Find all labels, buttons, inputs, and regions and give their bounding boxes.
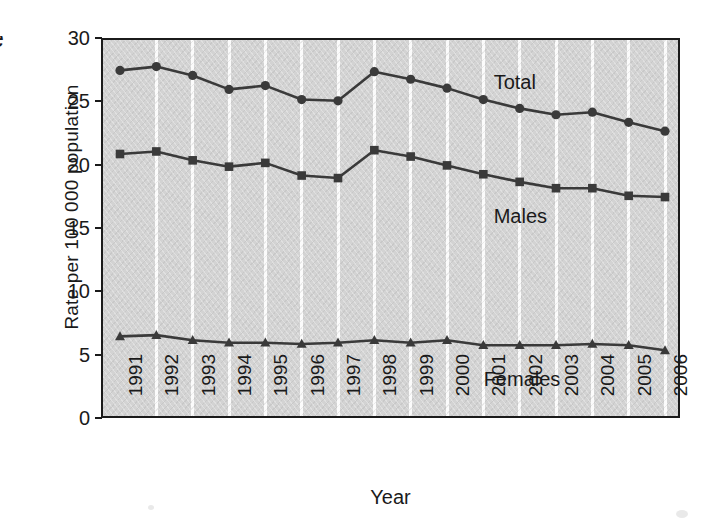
y-tick-label: 15 — [56, 218, 90, 238]
x-tick-label: 1996 — [308, 354, 327, 424]
data-point-total-1992 — [152, 62, 161, 71]
scan-speck — [676, 510, 688, 518]
series-label-total: Total — [494, 72, 536, 92]
series-total — [115, 62, 669, 136]
x-tick-label: 2006 — [671, 354, 690, 424]
series-line-females — [120, 335, 665, 350]
data-point-males-2001 — [479, 170, 488, 179]
series-males — [116, 146, 670, 201]
data-point-males-1994 — [225, 162, 234, 171]
series-line-males — [120, 150, 665, 197]
x-tick-label: 2004 — [598, 354, 617, 424]
data-point-total-2003 — [551, 110, 560, 119]
x-tick-label: 2005 — [635, 354, 654, 424]
data-point-total-2001 — [479, 95, 488, 104]
series-label-males: Males — [494, 206, 547, 226]
x-tick-label: 1994 — [235, 354, 254, 424]
data-point-males-1991 — [116, 150, 125, 159]
data-point-total-1997 — [333, 96, 342, 105]
x-tick-label: 2002 — [526, 354, 545, 424]
data-point-males-2002 — [515, 178, 524, 187]
data-point-total-1994 — [224, 85, 233, 94]
data-point-total-2000 — [442, 84, 451, 93]
data-point-total-1996 — [297, 95, 306, 104]
data-point-males-1999 — [406, 152, 415, 161]
edge-artifact-glyph: e — [0, 36, 4, 47]
data-point-males-1995 — [261, 159, 270, 168]
data-point-total-2002 — [515, 104, 524, 113]
x-tick-label: 1998 — [380, 354, 399, 424]
data-point-males-1992 — [152, 147, 161, 156]
y-tick-label: 25 — [56, 91, 90, 111]
data-point-total-2004 — [588, 108, 597, 117]
x-tick-label: 2001 — [489, 354, 508, 424]
scan-speck — [148, 505, 154, 510]
data-point-males-1998 — [370, 146, 379, 155]
data-point-total-2005 — [624, 118, 633, 127]
x-axis-title: Year — [101, 487, 680, 507]
x-tick-label: 1992 — [162, 354, 181, 424]
page-edge-glyph-artifact: e — [0, 36, 7, 53]
x-tick-label: 1999 — [417, 354, 436, 424]
data-point-males-2000 — [443, 161, 452, 170]
series-line-total — [120, 67, 665, 132]
x-tick-label: 2000 — [453, 354, 472, 424]
data-point-total-1993 — [188, 71, 197, 80]
x-tick-label: 1991 — [126, 354, 145, 424]
data-point-males-2004 — [588, 184, 597, 193]
x-tick-label: 1993 — [199, 354, 218, 424]
data-point-males-1997 — [334, 174, 343, 183]
data-point-males-1993 — [188, 156, 197, 165]
y-tick-label: 20 — [56, 155, 90, 175]
data-point-total-2006 — [660, 127, 669, 136]
y-tick-label: 5 — [56, 345, 90, 365]
data-point-males-2003 — [552, 184, 561, 193]
data-point-total-1998 — [370, 67, 379, 76]
data-point-total-1991 — [115, 66, 124, 75]
x-tick-label: 1995 — [271, 354, 290, 424]
chart-figure: e Rate per 100 000 population 3025201510… — [0, 0, 711, 525]
data-point-males-2005 — [624, 192, 633, 201]
x-tick-label: 1997 — [344, 354, 363, 424]
data-point-total-1999 — [406, 75, 415, 84]
data-point-total-1995 — [261, 81, 270, 90]
y-tick-label: 30 — [56, 28, 90, 48]
x-tick-label: 2003 — [562, 354, 581, 424]
y-tick-label: 0 — [56, 408, 90, 428]
y-tick-label: 10 — [56, 281, 90, 301]
series-females — [115, 330, 670, 354]
data-point-males-1996 — [297, 171, 306, 180]
data-point-males-2006 — [661, 193, 670, 202]
